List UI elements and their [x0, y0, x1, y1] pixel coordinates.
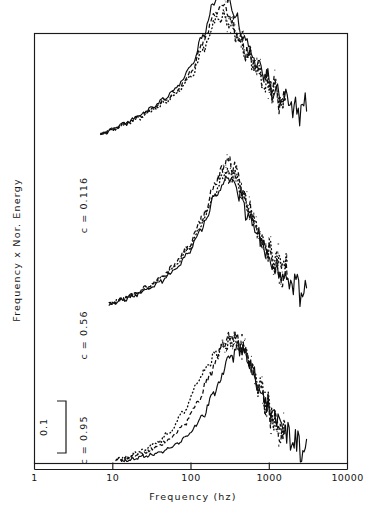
noise-speck — [254, 373, 255, 375]
noise-speck — [234, 24, 235, 25]
noise-speck — [266, 415, 267, 417]
noise-speck — [235, 174, 236, 176]
noise-speck — [259, 68, 260, 70]
scale-bar: 0.1 — [38, 401, 66, 453]
curve-label-c-0-116: c = 0.116 — [78, 177, 89, 233]
spectra-chart: 1 10 100 1000 10000 Frequency (hz) Frequ… — [0, 0, 380, 518]
noise-speck — [228, 182, 229, 184]
noise-speck — [233, 338, 234, 339]
noise-speck — [254, 223, 255, 224]
x-tick-label-10: 10 — [106, 472, 119, 483]
noise-speck — [260, 231, 261, 232]
noise-speck — [283, 428, 284, 429]
noise-speck — [279, 282, 280, 284]
noise-speck — [241, 334, 243, 336]
curve-solid — [109, 176, 306, 307]
noise-speck — [267, 409, 268, 411]
noise-speck — [235, 181, 237, 182]
noise-speck — [241, 46, 242, 48]
noise-speck — [265, 243, 266, 245]
noise-speck — [227, 21, 228, 22]
noise-speck — [267, 256, 268, 257]
x-tick-label-100: 100 — [181, 472, 200, 483]
noise-speck — [237, 347, 239, 349]
curve-solid — [122, 341, 307, 462]
noise-speck — [264, 405, 265, 406]
x-tick-labels: 1 10 100 1000 10000 — [31, 472, 363, 483]
noise-speck — [244, 204, 245, 205]
noise-speck — [231, 17, 232, 18]
noise-speck — [245, 350, 246, 352]
noise-speck — [283, 103, 284, 105]
noise-speck — [280, 284, 281, 285]
noise-speck — [260, 59, 261, 60]
noise-speck — [255, 70, 257, 72]
noise-speck — [274, 70, 275, 71]
noise-speck — [240, 196, 241, 198]
x-tick-label-10000: 10000 — [331, 472, 363, 483]
noise-speck — [263, 249, 264, 250]
noise-speck — [241, 189, 242, 191]
noise-speck — [277, 429, 278, 430]
noise-speck — [268, 237, 269, 238]
noise-speck — [231, 342, 232, 344]
noise-speck — [253, 66, 255, 67]
noise-speck — [268, 258, 269, 260]
noise-speck — [250, 58, 252, 60]
noise-speck — [268, 250, 269, 252]
noise-speck — [253, 68, 254, 69]
noise-speck — [223, 344, 224, 346]
noise-speck — [270, 236, 271, 237]
noise-speck — [275, 416, 276, 417]
noise-speck — [275, 83, 276, 84]
noise-speck — [268, 98, 269, 99]
noise-speck — [277, 96, 278, 98]
curve-dashed — [116, 332, 285, 461]
noise-speck — [272, 426, 273, 427]
noise-speck — [231, 164, 232, 165]
noise-speck — [281, 423, 282, 424]
noise-speck — [270, 419, 272, 421]
noise-speck — [233, 178, 235, 179]
noise-speck — [276, 421, 277, 422]
noise-speck — [258, 391, 259, 392]
noise-speck — [249, 219, 250, 220]
noise-speck — [252, 63, 253, 65]
noise-speck — [258, 238, 259, 239]
noise-speck — [262, 403, 263, 404]
noise-speck — [226, 19, 227, 20]
noise-speck — [258, 232, 259, 233]
noise-speck — [250, 368, 252, 370]
noise-speck — [278, 243, 280, 244]
noise-speck — [246, 191, 247, 192]
noise-speck — [230, 32, 231, 33]
noise-speck — [240, 349, 241, 351]
noise-speck — [228, 27, 229, 28]
noise-speck — [239, 185, 241, 187]
noise-speck — [266, 257, 267, 259]
noise-speck — [257, 236, 258, 238]
noise-speck — [264, 396, 265, 397]
noise-speck — [234, 40, 235, 41]
noise-speck — [234, 334, 235, 336]
noise-speck — [242, 191, 244, 192]
noise-speck — [277, 431, 278, 432]
noise-speck — [275, 79, 277, 81]
noise-speck — [242, 348, 243, 349]
noise-speck — [283, 413, 284, 414]
noise-speck — [243, 33, 244, 34]
noise-speck — [264, 392, 266, 393]
noise-speck — [236, 35, 237, 36]
noise-speck — [286, 254, 287, 256]
x-tick-label-1000: 1000 — [256, 472, 282, 483]
noise-speck — [267, 394, 268, 396]
noise-speck — [255, 60, 256, 61]
noise-speck — [254, 370, 255, 372]
noise-speck — [278, 253, 279, 254]
noise-speck — [279, 433, 280, 434]
noise-speck — [249, 48, 250, 50]
noise-speck — [273, 274, 274, 275]
noise-speck — [228, 172, 229, 173]
noise-speck — [245, 55, 246, 57]
noise-speck — [225, 179, 226, 181]
